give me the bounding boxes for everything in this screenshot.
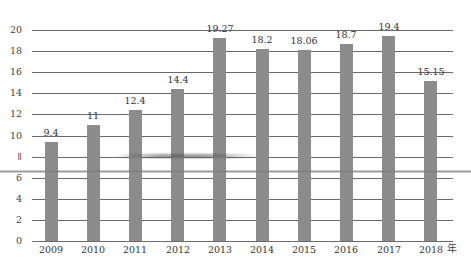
x-tick-label: 2016	[326, 245, 366, 255]
bar	[129, 110, 142, 241]
x-tick-label: 2011	[115, 245, 155, 255]
x-tick-label: 2015	[284, 245, 324, 255]
bar	[256, 49, 269, 241]
y-tick-label: 14	[0, 88, 22, 98]
scan-artifact-smudge	[115, 154, 260, 158]
x-tick-label: 2018	[411, 245, 451, 255]
x-unit-label: 年	[447, 244, 457, 254]
bar	[171, 89, 184, 241]
y-tick-label: 10	[0, 131, 22, 141]
value-label: 11	[68, 111, 118, 121]
y-tick-label: 20	[0, 25, 22, 35]
value-label: 19.27	[195, 24, 245, 34]
gridline	[32, 241, 453, 242]
bar	[298, 50, 311, 241]
bar	[382, 36, 395, 241]
scan-artifact-line	[0, 170, 471, 173]
y-tick-label: ǁ	[0, 152, 22, 162]
y-tick-label: 12	[0, 109, 22, 119]
x-tick-label: 2009	[31, 245, 71, 255]
bar-chart: 0246ǁ1012141618209.4200911201012.4201114…	[0, 0, 471, 267]
bar	[424, 81, 437, 241]
bar	[340, 44, 353, 241]
value-label: 19.4	[364, 22, 414, 32]
y-tick-label: 6	[0, 173, 22, 183]
y-tick-label: 0	[0, 236, 22, 246]
x-tick-label: 2014	[242, 245, 282, 255]
bar	[213, 38, 226, 241]
value-label: 14.4	[153, 75, 203, 85]
y-tick-label: 18	[0, 46, 22, 56]
bar	[45, 142, 58, 241]
y-tick-label: 4	[0, 194, 22, 204]
value-label: 15.15	[406, 67, 456, 77]
x-tick-label: 2013	[200, 245, 240, 255]
y-tick-label: 2	[0, 215, 22, 225]
y-tick-label: 16	[0, 67, 22, 77]
x-tick-label: 2010	[73, 245, 113, 255]
value-label: 12.4	[110, 96, 160, 106]
x-tick-label: 2012	[158, 245, 198, 255]
value-label: 9.4	[26, 128, 76, 138]
x-tick-label: 2017	[369, 245, 409, 255]
bar	[87, 125, 100, 241]
